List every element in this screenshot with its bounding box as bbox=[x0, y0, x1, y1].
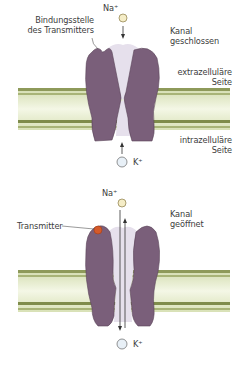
extracellular-label: extrazelluläre Seite bbox=[160, 67, 232, 87]
intracellular-line1: intrazelluläre bbox=[160, 135, 232, 145]
k-ion-icon bbox=[117, 157, 127, 167]
na-label: Na⁺ bbox=[103, 3, 118, 13]
k-label: K⁺ bbox=[133, 157, 143, 167]
open-channel-graphic bbox=[0, 180, 246, 367]
channel-state-label: Kanal geöffnet bbox=[170, 209, 204, 229]
channel-state-line2: geschlossen bbox=[170, 36, 219, 46]
channel-state-label: Kanal geschlossen bbox=[170, 26, 219, 46]
extracellular-line1: extrazelluläre bbox=[160, 67, 232, 77]
panel-closed-channel: Na⁺ Bindungsstelle des Transmitters Kana… bbox=[0, 0, 246, 180]
intracellular-line2: Seite bbox=[160, 145, 232, 155]
panel-open-channel: Na⁺ Kanal geöffnet Transmitter K⁺ bbox=[0, 180, 246, 367]
na-label: Na⁺ bbox=[102, 188, 117, 198]
na-ion-icon bbox=[118, 199, 126, 207]
binding-site-label-line1: Bindungsstelle bbox=[22, 15, 94, 25]
channel-state-line1: Kanal bbox=[170, 26, 219, 36]
transmitter-label: Transmitter bbox=[17, 221, 63, 231]
transmitter-molecule-icon bbox=[94, 226, 102, 234]
k-label: K⁺ bbox=[133, 339, 143, 349]
k-ion-icon bbox=[117, 339, 127, 349]
binding-site-label: Bindungsstelle des Transmitters bbox=[22, 15, 94, 35]
extracellular-line2: Seite bbox=[160, 77, 232, 87]
transmitter-pointer bbox=[62, 226, 94, 229]
channel-state-line1: Kanal bbox=[170, 209, 204, 219]
intracellular-label: intrazelluläre Seite bbox=[160, 135, 232, 155]
channel-state-line2: geöffnet bbox=[170, 219, 204, 229]
binding-site-label-line2: des Transmitters bbox=[22, 25, 94, 35]
binding-site-pointer bbox=[92, 38, 98, 49]
na-ion-icon bbox=[119, 14, 127, 22]
